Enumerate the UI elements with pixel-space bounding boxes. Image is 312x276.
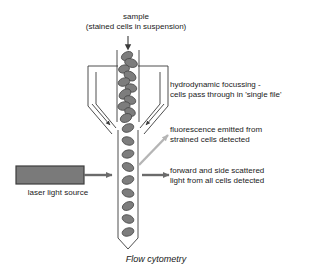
label-scatter-line2: light from all cells detected [170, 176, 312, 186]
label-hydrodynamic-focussing: hydrodynamic focussing - cells pass thro… [170, 80, 312, 100]
fluorescence-arrow [139, 135, 168, 165]
flow-cytometry-diagram: sample (stained cells in suspension) hyd… [0, 0, 312, 276]
label-sample-line2: (stained cells in suspension) [46, 22, 226, 32]
label-scatter-line1: forward and side scattered [170, 166, 312, 176]
label-fluorescence-line1: fluorescence emitted from [170, 125, 312, 135]
label-sample-line1: sample [46, 12, 226, 22]
label-fluorescence: fluorescence emitted from strained cells… [170, 125, 312, 145]
label-sample: sample (stained cells in suspension) [46, 12, 226, 32]
label-laser-light-source: laser light source [4, 188, 112, 198]
label-fluorescence-line2: strained cells detected [170, 135, 312, 145]
label-hydrodynamic-line1: hydrodynamic focussing - [170, 80, 312, 90]
figure-caption: Flow cytometry [92, 254, 220, 264]
cells-in-suspension [117, 50, 138, 125]
sample-inlet-arrow [125, 36, 131, 51]
label-scattered-light: forward and side scattered light from al… [170, 166, 312, 186]
cells-single-file [121, 122, 135, 238]
laser-light-source-box [16, 166, 84, 184]
label-hydrodynamic-line2: cells pass through in 'single file' [170, 90, 312, 100]
